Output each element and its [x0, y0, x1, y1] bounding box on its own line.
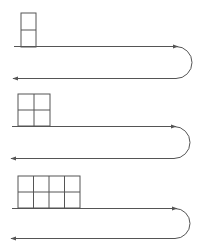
row-2 [11, 94, 190, 159]
loop-arc [176, 47, 192, 79]
row-1 [13, 13, 192, 79]
grid-2x2 [18, 94, 50, 126]
loop-arc [175, 209, 190, 239]
loop-arc [174, 127, 190, 159]
diagram-canvas [0, 0, 202, 252]
row-3 [11, 176, 190, 239]
grid-4x2 [18, 176, 80, 208]
grid-1x2 [21, 13, 36, 47]
